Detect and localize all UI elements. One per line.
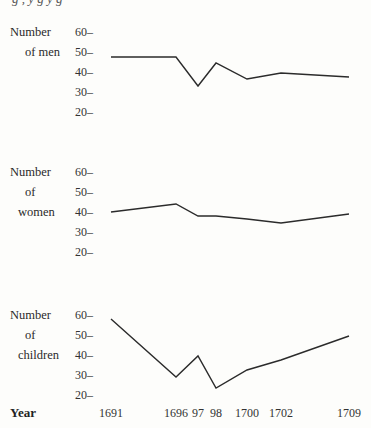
x-tick-label: 98 — [210, 406, 222, 420]
y-axis-label-line: Number — [10, 25, 52, 39]
x-tick-label: 1702 — [269, 406, 293, 420]
x-axis: Year 169116969798170017021709 — [10, 405, 361, 420]
y-axis-label-line: of — [25, 328, 36, 342]
y-tick-label: 60– — [75, 308, 94, 322]
x-tick-label: 1696 — [164, 406, 188, 420]
series-line — [111, 319, 349, 388]
caption-fragment: g , y g y g — [12, 0, 63, 6]
y-axis-label-line: women — [18, 205, 56, 219]
y-tick-label: 20– — [75, 105, 94, 119]
y-tick-label: 30– — [75, 225, 94, 239]
chart-figure: g , y g y g Numberof men60–50–40–30–20–N… — [0, 0, 371, 428]
y-tick-label: 20– — [75, 245, 94, 259]
x-tick-label: 1691 — [99, 406, 123, 420]
y-tick-label: 60– — [75, 25, 94, 39]
x-tick-label: 1709 — [337, 406, 361, 420]
y-tick-label: 50– — [75, 328, 94, 342]
y-axis-label-line: children — [18, 348, 60, 362]
x-tick-label: 1700 — [235, 406, 259, 420]
y-tick-label: 30– — [75, 368, 94, 382]
y-tick-label: 50– — [75, 185, 94, 199]
y-tick-label: 40– — [75, 205, 94, 219]
y-axis-label-line: of men — [25, 45, 61, 59]
y-axis-label-line: Number — [10, 308, 52, 322]
y-axis-label-line: Number — [10, 165, 52, 179]
panel-children: Numberofchildren60–50–40–30–20– — [10, 308, 349, 402]
y-tick-label: 40– — [75, 348, 94, 362]
y-tick-label: 50– — [75, 45, 94, 59]
series-line — [111, 57, 349, 86]
panel-men: Numberof men60–50–40–30–20– — [10, 25, 349, 119]
x-axis-title: Year — [10, 405, 36, 420]
y-tick-label: 40– — [75, 65, 94, 79]
y-tick-label: 60– — [75, 165, 94, 179]
y-axis-label-line: of — [25, 185, 36, 199]
series-line — [111, 204, 349, 223]
y-tick-label: 20– — [75, 388, 94, 402]
x-tick-label: 97 — [192, 406, 204, 420]
y-tick-label: 30– — [75, 85, 94, 99]
panel-women: Numberofwomen60–50–40–30–20– — [10, 165, 349, 259]
